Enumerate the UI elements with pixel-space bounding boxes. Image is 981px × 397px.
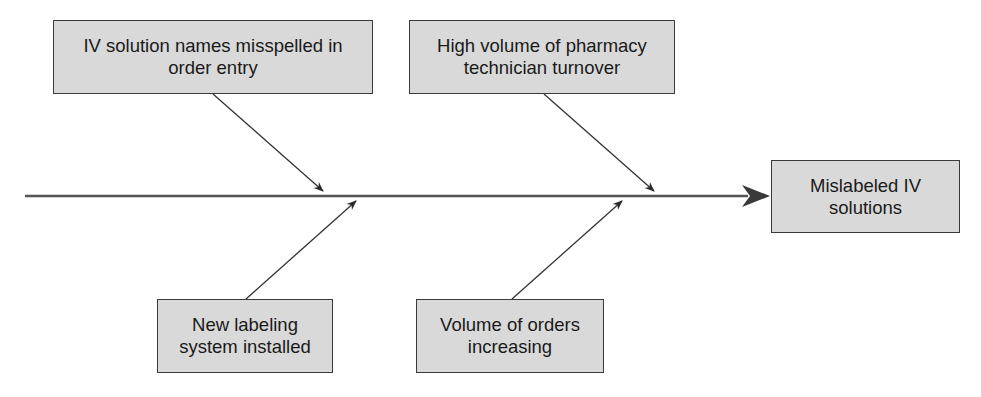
cause-box-top-left: IV solution names misspelled in order en…	[53, 20, 373, 94]
label-line: technician turnover	[437, 57, 647, 79]
cause-box-bottom-left: New labeling system installed	[157, 299, 333, 373]
label-line: New labeling	[179, 314, 311, 336]
label-line: solutions	[810, 197, 921, 219]
cause-arrow-top-right	[544, 94, 654, 191]
label-line: Volume of orders	[440, 314, 580, 336]
cause-label: New labeling system installed	[179, 314, 311, 358]
label-line: Mislabeled IV	[810, 175, 921, 197]
label-line: High volume of pharmacy	[437, 35, 647, 57]
cause-box-top-right: High volume of pharmacy technician turno…	[409, 20, 675, 94]
label-line: order entry	[83, 57, 342, 79]
cause-arrow-bottom-left	[246, 201, 356, 299]
label-line: IV solution names misspelled in	[83, 35, 342, 57]
label-line: system installed	[179, 336, 311, 358]
cause-label: IV solution names misspelled in order en…	[83, 35, 342, 79]
label-line: increasing	[440, 336, 580, 358]
effect-label: Mislabeled IV solutions	[810, 175, 921, 219]
cause-arrow-bottom-right	[512, 201, 622, 299]
cause-box-bottom-right: Volume of orders increasing	[416, 299, 604, 373]
cause-arrow-top-left	[213, 94, 323, 191]
effect-box: Mislabeled IV solutions	[771, 160, 960, 233]
cause-label: High volume of pharmacy technician turno…	[437, 35, 647, 79]
cause-label: Volume of orders increasing	[440, 314, 580, 358]
